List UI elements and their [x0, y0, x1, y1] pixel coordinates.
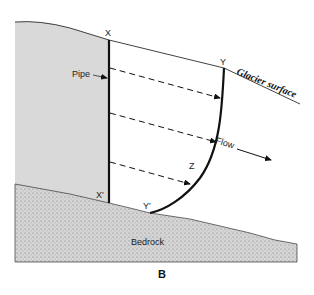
label-y-prime: Y': [143, 201, 151, 211]
displacement-arrow-2: [110, 113, 216, 142]
label-glacier-surface: Glacier surface: [235, 66, 299, 100]
flow-arrow: [237, 149, 271, 160]
label-x: X: [105, 28, 111, 38]
displacement-arrow-3: [110, 162, 190, 184]
label-x-prime: X': [96, 190, 104, 200]
pipe-deformed: [150, 68, 224, 213]
bedrock-region: [15, 184, 297, 262]
label-z: Z: [189, 161, 195, 171]
displacement-arrow-1: [110, 68, 220, 98]
label-bedrock: Bedrock: [131, 237, 165, 247]
ice-region: [15, 22, 109, 203]
label-y: Y: [220, 57, 226, 67]
panel-label: B: [158, 268, 166, 280]
label-pipe: Pipe: [72, 69, 90, 79]
glacier-flow-diagram: X X' Y Y' Z Pipe Glacier surface Flow Be…: [0, 0, 314, 295]
label-flow: Flow: [214, 135, 236, 150]
